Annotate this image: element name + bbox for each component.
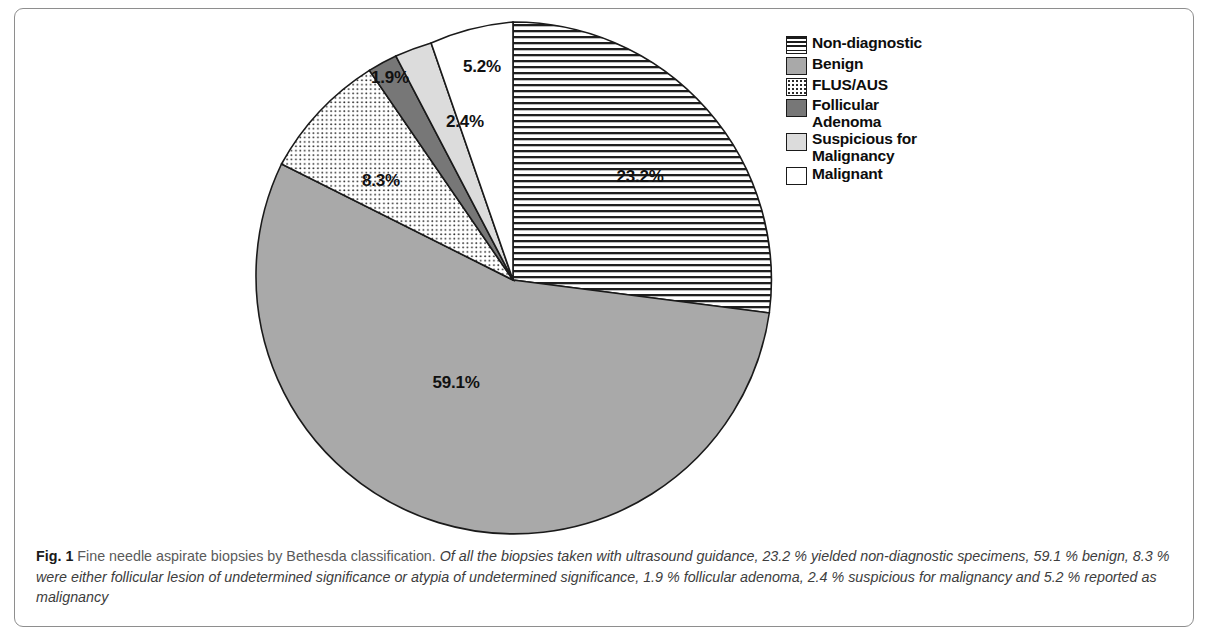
slice-label-follicular-adenoma: 1.9% xyxy=(371,68,409,88)
figure-title: Fine needle aspirate biopsies by Bethesd… xyxy=(77,548,435,564)
figure-body: 23.2% 59.1% 8.3% 1.9% 2.4% 5.2% Non-diag… xyxy=(0,0,1207,635)
legend-label-flus-aus: FLUS/AUS xyxy=(812,76,888,93)
slice-label-suspicious-for-malignancy: 2.4% xyxy=(446,112,484,132)
legend-label-benign: Benign xyxy=(812,55,863,72)
legend-label-malignant: Malignant xyxy=(812,165,883,182)
legend-item-non-diagnostic: Non-diagnostic xyxy=(786,34,1086,54)
legend-item-follicular-adenoma: Follicular Adenoma xyxy=(786,97,1086,130)
slice-label-non-diagnostic: 23.2% xyxy=(616,167,663,187)
figure-caption: Fig. 1 Fine needle aspirate biopsies by … xyxy=(36,546,1176,608)
legend-label-suspicious-for-malignancy: Suspicious for Malignancy xyxy=(812,131,917,164)
legend-item-benign: Benign xyxy=(786,55,1086,75)
legend-swatch-horizontal-lines-icon xyxy=(786,36,807,54)
legend-item-malignant: Malignant xyxy=(786,165,1086,185)
legend-swatch-dotted-icon xyxy=(786,78,807,96)
legend-swatch-solid-dark-gray-icon xyxy=(786,99,807,117)
legend-item-flus-aus: FLUS/AUS xyxy=(786,76,1086,96)
legend-swatch-solid-light-gray-icon xyxy=(786,133,807,151)
pie-chart: 23.2% 59.1% 8.3% 1.9% 2.4% 5.2% xyxy=(0,0,790,545)
slice-label-malignant: 5.2% xyxy=(463,57,501,77)
legend-swatch-solid-gray-icon xyxy=(786,57,807,75)
chart-legend: Non-diagnostic Benign FLUS/AUS Follicula… xyxy=(786,34,1086,186)
slice-label-benign: 59.1% xyxy=(432,373,479,393)
legend-label-non-diagnostic: Non-diagnostic xyxy=(812,34,922,51)
legend-item-suspicious-for-malignancy: Suspicious for Malignancy xyxy=(786,131,1086,164)
figure-label: Fig. 1 xyxy=(36,548,73,564)
legend-label-follicular-adenoma: Follicular Adenoma xyxy=(812,97,881,130)
slice-label-flus-aus: 8.3% xyxy=(362,171,400,191)
legend-swatch-white-icon xyxy=(786,167,807,185)
